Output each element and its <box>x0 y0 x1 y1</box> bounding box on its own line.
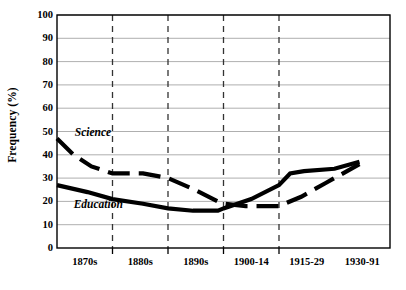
plot-area: ScienceEducation <box>0 0 406 290</box>
x-tick-label: 1880s <box>113 256 169 276</box>
education-label: Education <box>73 198 123 210</box>
x-tick-label: 1930-91 <box>335 256 391 276</box>
x-tick-label: 1870s <box>57 256 113 276</box>
x-axis-ticks <box>113 248 280 254</box>
x-tick-label: 1915-29 <box>279 256 335 276</box>
science-label: Science <box>75 126 111 138</box>
line-chart: Frequency (%) 0102030405060708090100 Sci… <box>0 0 406 290</box>
x-axis-tick-labels: 1870s1880s1890s1900-141915-291930-91 <box>57 256 390 276</box>
x-tick-label: 1900-14 <box>224 256 280 276</box>
x-tick-label: 1890s <box>168 256 224 276</box>
